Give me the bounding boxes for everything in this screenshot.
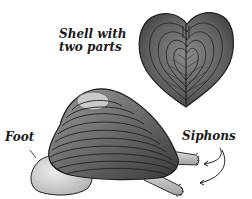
clam-shell xyxy=(49,89,179,180)
foot-label: Foot xyxy=(5,131,34,144)
foot-pointer-line xyxy=(30,150,36,158)
clam-diagram: Shell with two parts Foot Siphons xyxy=(0,0,252,199)
heart-shell xyxy=(139,13,233,107)
clam-illustration xyxy=(0,0,252,199)
shell-label: Shell with two parts xyxy=(59,28,121,54)
siphons-arrows xyxy=(200,148,225,185)
siphons-label: Siphons xyxy=(182,130,236,143)
shell-label-line2: two parts xyxy=(59,41,121,54)
